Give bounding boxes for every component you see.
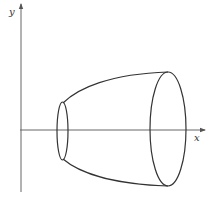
x-axis-label: x (194, 132, 200, 143)
lower-profile-curve (63, 159, 168, 186)
y-axis-label: y (8, 6, 15, 17)
small-cross-section (57, 102, 68, 160)
solid-of-revolution-diagram: y x (0, 0, 215, 206)
large-cross-section (150, 72, 186, 186)
